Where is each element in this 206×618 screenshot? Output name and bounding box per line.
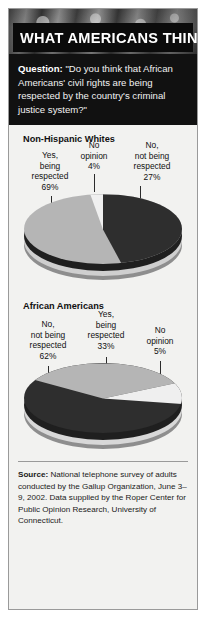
chart2-label-yes: Yes, being respected 33%	[77, 309, 135, 351]
chart2-pie	[24, 363, 182, 455]
chart1-leader-no-opinion	[94, 174, 95, 192]
chart-section-african-americans: African Americans No, not being respecte…	[9, 292, 197, 459]
header-banner: WHAT AMERICANS THINK	[9, 9, 197, 54]
chart2-pie-area: No, not being respected 62% Yes, being r…	[9, 311, 197, 459]
chart2-pie-top	[24, 363, 182, 433]
infographic-root: WHAT AMERICANS THINK Question: "Do you t…	[0, 0, 206, 618]
source-label: Source:	[18, 470, 48, 479]
page-title: WHAT AMERICANS THINK	[20, 29, 197, 47]
chart1-pie-top	[24, 194, 182, 264]
chart1-label-no: No, not being respected 27%	[121, 140, 183, 182]
source-note: Source: National telephone survey of adu…	[9, 462, 197, 534]
chart1-pie-area: Yes, being respected 69% No opinion 4%	[9, 144, 197, 292]
chart1-pie	[24, 194, 182, 286]
question-block: Question: "Do you think that African Ame…	[9, 54, 197, 125]
chart2-label-no: No, not being respected 62%	[17, 319, 79, 361]
chart1-label-no-opinion: No opinion 4%	[71, 140, 117, 172]
title-bar: WHAT AMERICANS THINK	[13, 23, 193, 52]
chart-section-non-hispanic-whites: Non-Hispanic Whites Yes, being respected…	[9, 125, 197, 292]
chart2-label-no-opinion: No opinion 5%	[137, 325, 183, 357]
infographic-card: WHAT AMERICANS THINK Question: "Do you t…	[8, 8, 198, 610]
charts-container: Non-Hispanic Whites Yes, being respected…	[9, 125, 197, 461]
question-label: Question:	[18, 63, 63, 74]
